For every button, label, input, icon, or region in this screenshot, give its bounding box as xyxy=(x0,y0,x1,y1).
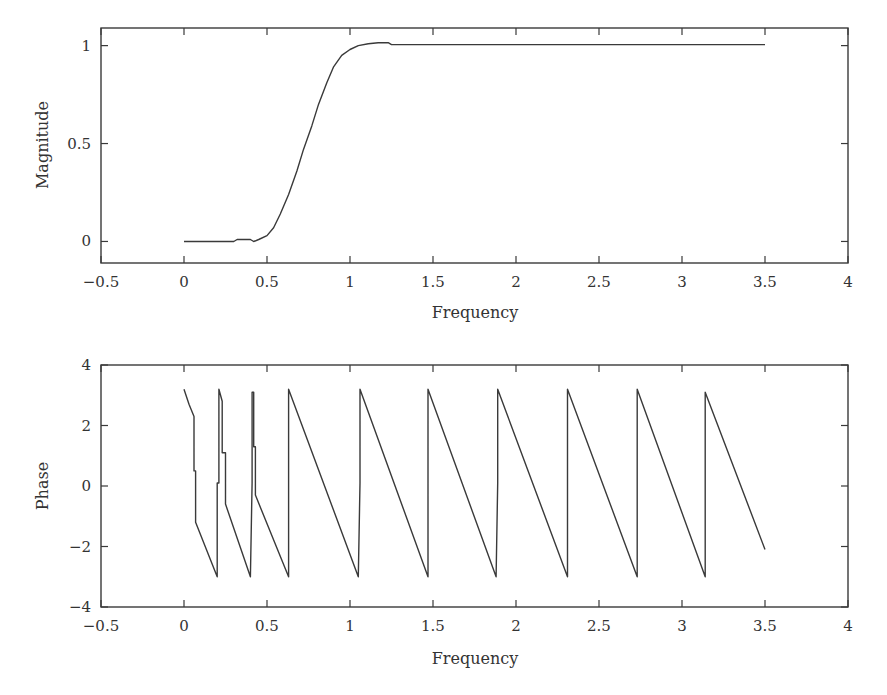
magnitude-axes-frame xyxy=(101,28,848,263)
magnitude-x-axis-label: Frequency xyxy=(432,303,519,322)
x-tick-label: 0 xyxy=(179,273,189,291)
x-tick-label: 0.5 xyxy=(255,273,279,291)
x-tick-label: 3.5 xyxy=(753,273,777,291)
x-tick-label: 3 xyxy=(677,273,687,291)
magnitude-plot: −0.500.511.522.533.5400.51 Frequency Mag… xyxy=(33,28,853,322)
x-tick-label: 4 xyxy=(843,617,853,635)
phase-plot: −0.500.511.522.533.54−4−2024 Frequency P… xyxy=(33,356,853,668)
y-tick-label: −2 xyxy=(69,538,91,556)
magnitude-y-axis-label: Magnitude xyxy=(33,101,52,189)
x-tick-label: 1 xyxy=(345,273,355,291)
phase-axes-frame xyxy=(101,365,848,607)
x-tick-label: 0.5 xyxy=(255,617,279,635)
x-tick-label: 2.5 xyxy=(587,617,611,635)
x-tick-label: 2.5 xyxy=(587,273,611,291)
x-tick-label: 1 xyxy=(345,617,355,635)
x-tick-label: 3.5 xyxy=(753,617,777,635)
x-tick-label: 2 xyxy=(511,273,521,291)
x-tick-label: 0 xyxy=(179,617,189,635)
x-tick-label: −0.5 xyxy=(83,617,119,635)
y-tick-label: 0 xyxy=(81,477,91,495)
x-tick-label: 1.5 xyxy=(421,617,445,635)
y-tick-label: 0.5 xyxy=(67,135,91,153)
magnitude-ticks: −0.500.511.522.533.5400.51 xyxy=(67,28,853,291)
phase-line xyxy=(184,389,765,577)
x-tick-label: −0.5 xyxy=(83,273,119,291)
x-tick-label: 2 xyxy=(511,617,521,635)
phase-x-axis-label: Frequency xyxy=(432,649,519,668)
x-tick-label: 4 xyxy=(843,273,853,291)
phase-y-axis-label: Phase xyxy=(33,462,52,510)
y-tick-label: −4 xyxy=(69,598,91,616)
y-tick-label: 0 xyxy=(81,232,91,250)
figure: −0.500.511.522.533.5400.51 Frequency Mag… xyxy=(0,0,887,695)
x-tick-label: 1.5 xyxy=(421,273,445,291)
y-tick-label: 2 xyxy=(81,417,91,435)
y-tick-label: 1 xyxy=(81,37,91,55)
x-tick-label: 3 xyxy=(677,617,687,635)
y-tick-label: 4 xyxy=(81,356,91,374)
magnitude-line xyxy=(184,43,765,242)
